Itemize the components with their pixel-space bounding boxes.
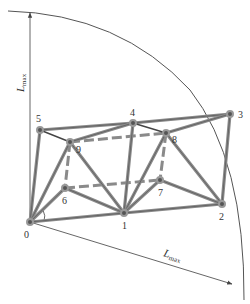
node-label-8: 8 xyxy=(172,134,177,145)
node-3-joint-icon xyxy=(227,111,233,117)
diagonal-axis-label: Lmax xyxy=(161,246,184,265)
node-0-joint-icon xyxy=(27,219,33,225)
node-4-joint-icon xyxy=(130,120,136,126)
node-6-joint-icon xyxy=(62,185,68,191)
node-label-1: 1 xyxy=(122,220,127,231)
truss-diagram: Lmax Lmax 0123456789 xyxy=(0,0,250,304)
node-label-9: 9 xyxy=(76,144,81,155)
node-label-6: 6 xyxy=(62,195,67,206)
node-1-joint-icon xyxy=(121,210,127,216)
svg-text:Lmax: Lmax xyxy=(14,73,28,93)
node-9-joint-icon xyxy=(67,139,73,145)
member-4-8 xyxy=(133,123,166,133)
member-5-9 xyxy=(40,130,70,142)
node-7-joint-icon xyxy=(157,177,163,183)
node-label-7: 7 xyxy=(158,187,163,198)
node-label-3: 3 xyxy=(238,109,243,120)
reach-arc xyxy=(8,11,244,300)
diagonal-axis xyxy=(30,222,232,284)
node-label-0: 0 xyxy=(24,229,29,240)
truss-members xyxy=(30,114,230,222)
svg-text:Lmax: Lmax xyxy=(161,246,184,265)
vertical-axis-label: Lmax xyxy=(14,73,28,93)
node-2-joint-icon xyxy=(219,201,225,207)
node-8-joint-icon xyxy=(163,130,169,136)
node-label-2: 2 xyxy=(219,211,224,222)
dashed-member-6-7 xyxy=(65,180,160,188)
node-label-5: 5 xyxy=(36,113,41,124)
node-5-joint-icon xyxy=(37,127,43,133)
node-label-4: 4 xyxy=(130,107,135,118)
